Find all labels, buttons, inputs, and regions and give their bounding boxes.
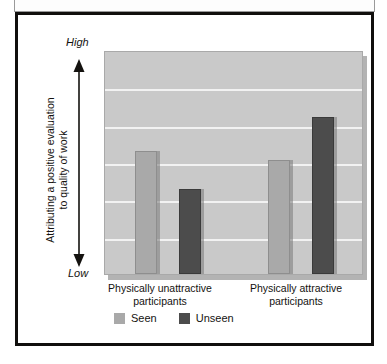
chart-legend: Seen Unseen xyxy=(114,312,234,324)
bar-unseen-cat0 xyxy=(179,189,201,274)
y-axis-title-line1: Attributing a positive evaluation xyxy=(44,97,56,242)
legend-item-unseen: Unseen xyxy=(179,312,234,324)
category-label-1-line2: participants xyxy=(226,295,366,308)
legend-swatch-seen-icon xyxy=(114,313,125,324)
category-label-1: Physically attractive participants xyxy=(226,282,366,308)
legend-swatch-unseen-icon xyxy=(179,313,190,324)
axis-low-label: Low xyxy=(68,267,88,279)
chart-area: High Low Attributing a positive evaluati… xyxy=(18,15,371,343)
gridline-0 xyxy=(105,89,362,91)
category-label-0-line1: Physically unattractive xyxy=(108,282,212,294)
top-partial-box xyxy=(14,0,375,12)
y-axis-title: Attributing a positive evaluation to qua… xyxy=(44,70,70,270)
bar-seen-cat1 xyxy=(268,160,290,274)
axis-high-label: High xyxy=(66,36,89,48)
double-headed-vertical-arrow-icon xyxy=(72,59,86,267)
bar-unseen-cat1 xyxy=(312,117,334,274)
y-axis-title-line2: to quality of work xyxy=(57,70,70,270)
category-label-1-line1: Physically attractive xyxy=(250,282,342,294)
legend-item-seen: Seen xyxy=(114,312,157,324)
legend-label-unseen: Unseen xyxy=(196,312,234,324)
plot-area xyxy=(104,51,363,275)
category-label-0: Physically unattractive participants xyxy=(90,282,230,308)
bar-seen-cat0 xyxy=(135,151,157,274)
figure-frame: High Low Attributing a positive evaluati… xyxy=(15,12,374,346)
figure-root: High Low Attributing a positive evaluati… xyxy=(0,0,387,364)
category-label-0-line2: participants xyxy=(90,295,230,308)
legend-label-seen: Seen xyxy=(131,312,157,324)
